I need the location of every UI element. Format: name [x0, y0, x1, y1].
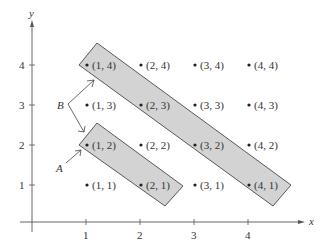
x-axis-label: x	[308, 215, 314, 227]
diagram-canvas: y x 1 2 3 4 1 2 3 4 (1, 1) (2, 1) (3, 1)…	[0, 0, 326, 250]
point-label: (3, 4)	[200, 59, 224, 72]
y-ticks: 1 2 3 4	[19, 59, 35, 191]
x-axis-arrowhead-icon	[298, 220, 305, 224]
point-label: (2, 2)	[146, 139, 170, 152]
y-tick-label: 2	[19, 139, 25, 151]
region-a-band	[79, 123, 183, 206]
arrow-a-icon	[66, 150, 81, 163]
x-tick-label: 4	[245, 229, 251, 241]
point-label: (1, 3)	[92, 99, 116, 112]
point-label: (2, 3)	[146, 99, 170, 112]
x-tick-label: 3	[191, 229, 197, 241]
point-label: (1, 4)	[92, 59, 116, 72]
y-tick-label: 4	[19, 59, 25, 71]
point-label: (1, 2)	[92, 139, 116, 152]
point-label: (4, 2)	[254, 139, 278, 152]
point-label: (3, 3)	[200, 99, 224, 112]
arrow-b-to-upper-icon	[68, 80, 94, 104]
point-label: (1, 1)	[92, 179, 116, 192]
point-label: (4, 3)	[254, 99, 278, 112]
y-tick-label: 1	[19, 179, 25, 191]
y-tick-label: 3	[19, 99, 25, 111]
point-label: (2, 1)	[146, 179, 170, 192]
x-tick-label: 1	[83, 229, 89, 241]
y-axis-label: y	[28, 7, 34, 19]
point-label: (3, 1)	[200, 179, 224, 192]
x-tick-label: 2	[137, 229, 143, 241]
y-axis-arrowhead-icon	[30, 20, 34, 27]
region-label-b: B	[57, 99, 64, 111]
point-label: (4, 1)	[254, 179, 278, 192]
point-label: (2, 4)	[146, 59, 170, 72]
arrow-b-to-lower-icon	[68, 104, 85, 132]
point-label: (3, 2)	[200, 139, 224, 152]
region-label-a: A	[55, 162, 63, 174]
point-label: (4, 4)	[254, 59, 278, 72]
